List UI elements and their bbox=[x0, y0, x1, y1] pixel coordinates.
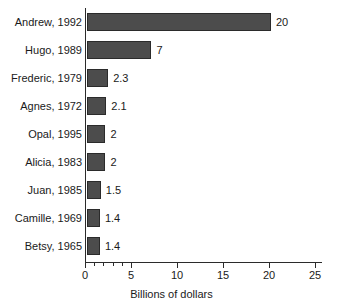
bar-row: Frederic, 19792.3 bbox=[86, 64, 322, 92]
x-tick-major bbox=[269, 263, 270, 268]
x-tick-minor bbox=[113, 263, 114, 266]
bar bbox=[87, 209, 100, 227]
bar bbox=[87, 69, 108, 87]
x-tick-major bbox=[315, 263, 316, 268]
category-label: Agnes, 1972 bbox=[0, 92, 86, 120]
bar bbox=[87, 237, 100, 255]
bar-value-label: 2 bbox=[110, 153, 116, 171]
category-label: Opal, 1995 bbox=[0, 120, 86, 148]
x-tick-label: 10 bbox=[157, 269, 197, 281]
bar-row: Camille, 19691.4 bbox=[86, 204, 322, 232]
x-tick-label: 5 bbox=[111, 269, 151, 281]
bar-value-label: 1.4 bbox=[105, 209, 120, 227]
x-tick-label: 25 bbox=[295, 269, 335, 281]
x-tick-major bbox=[223, 263, 224, 268]
bar bbox=[87, 181, 101, 199]
x-tick-label: 20 bbox=[249, 269, 289, 281]
category-label: Andrew, 1992 bbox=[0, 8, 86, 36]
x-tick-major bbox=[131, 263, 132, 268]
bar-value-label: 20 bbox=[276, 13, 288, 31]
bar-row: Alicia, 19832 bbox=[86, 148, 322, 176]
x-tick-major bbox=[177, 263, 178, 268]
bar-row: Hugo, 19897 bbox=[86, 36, 322, 64]
x-tick-minor bbox=[103, 263, 104, 266]
bar bbox=[87, 13, 271, 31]
bar-value-label: 1.5 bbox=[106, 181, 121, 199]
bar-row: Opal, 19952 bbox=[86, 120, 322, 148]
bar-value-label: 2.1 bbox=[111, 97, 126, 115]
x-axis-line bbox=[85, 262, 322, 263]
category-label: Juan, 1985 bbox=[0, 176, 86, 204]
x-tick-minor bbox=[122, 263, 123, 266]
x-tick-label: 15 bbox=[203, 269, 243, 281]
x-tick-major bbox=[85, 263, 86, 268]
bar-row: Andrew, 199220 bbox=[86, 8, 322, 36]
category-label: Frederic, 1979 bbox=[0, 64, 86, 92]
bar-row: Agnes, 19722.1 bbox=[86, 92, 322, 120]
bar-row: Betsy, 19651.4 bbox=[86, 232, 322, 260]
category-label: Alicia, 1983 bbox=[0, 148, 86, 176]
bar bbox=[87, 97, 106, 115]
category-label: Hugo, 1989 bbox=[0, 36, 86, 64]
x-tick-label: 0 bbox=[65, 269, 105, 281]
category-label: Betsy, 1965 bbox=[0, 232, 86, 260]
bar-chart: Andrew, 199220Hugo, 19897Frederic, 19792… bbox=[0, 0, 343, 306]
x-tick-minor bbox=[94, 263, 95, 266]
bar-value-label: 2.3 bbox=[113, 69, 128, 87]
bar-value-label: 7 bbox=[156, 41, 162, 59]
bar bbox=[87, 41, 151, 59]
plot-area: Andrew, 199220Hugo, 19897Frederic, 19792… bbox=[86, 8, 322, 262]
bar bbox=[87, 153, 105, 171]
bar-value-label: 2 bbox=[110, 125, 116, 143]
x-axis-title: Billions of dollars bbox=[0, 288, 343, 300]
bar-row: Juan, 19851.5 bbox=[86, 176, 322, 204]
category-label: Camille, 1969 bbox=[0, 204, 86, 232]
bar-value-label: 1.4 bbox=[105, 237, 120, 255]
bar bbox=[87, 125, 105, 143]
